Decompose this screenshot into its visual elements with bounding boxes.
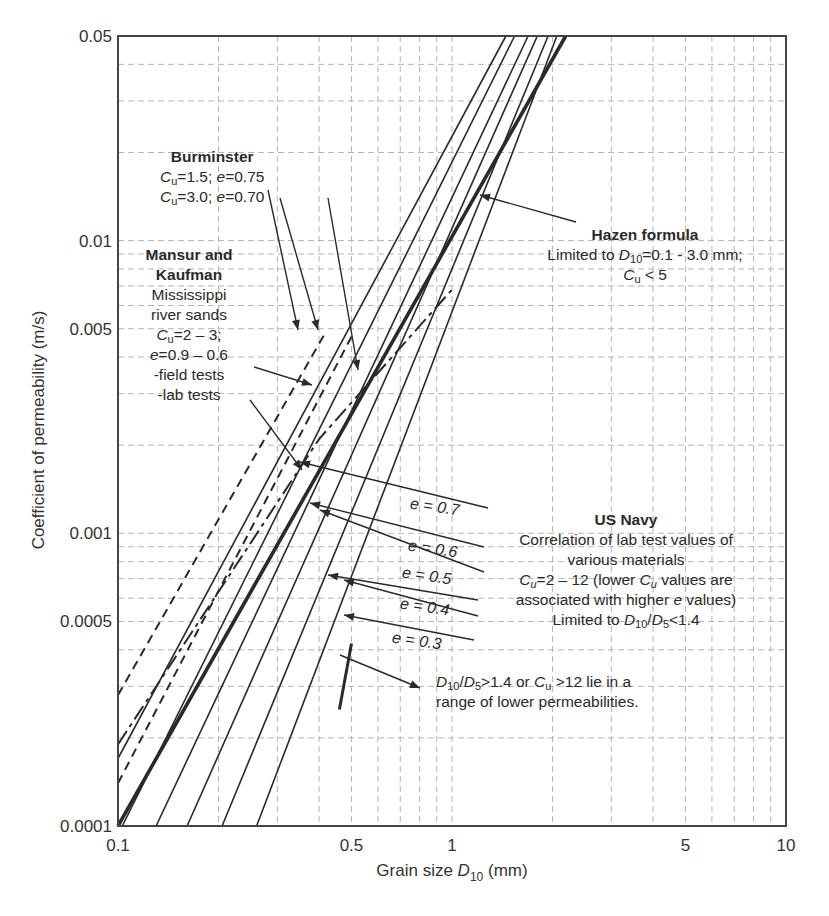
us-navy-annotation: US Navy Correlation of lab test values o… bbox=[476, 510, 776, 630]
hazen-annotation: Hazen formula Limited to D10=0.1 - 3.0 m… bbox=[540, 225, 750, 285]
x-tick-label: 0.5 bbox=[340, 836, 364, 855]
arrow-line bbox=[250, 400, 302, 470]
mansur-kaufman-annotation: Mansur and Kaufman Mississippi river san… bbox=[130, 245, 248, 405]
arrow-line bbox=[340, 655, 420, 688]
arrow-head-icon bbox=[301, 378, 312, 386]
arrow-line bbox=[480, 195, 576, 222]
y-tick-label: 0.01 bbox=[79, 232, 112, 251]
arrow-line bbox=[280, 198, 318, 330]
series-line bbox=[339, 644, 351, 710]
y-tick-label: 0.0005 bbox=[60, 612, 112, 631]
permeability-chart: 0.10.515100.050.010.0050.0010.00050.0001… bbox=[0, 0, 829, 916]
x-tick-label: 1 bbox=[447, 836, 456, 855]
x-tick-label: 5 bbox=[681, 836, 690, 855]
y-tick-label: 0.001 bbox=[69, 524, 112, 543]
lower-permeability-note: D10/D5>1.4 or Cu >12 lie in a range of l… bbox=[436, 672, 638, 712]
x-tick-label: 0.1 bbox=[106, 836, 130, 855]
arrow-head-icon bbox=[344, 613, 355, 621]
arrow-head-icon bbox=[328, 573, 339, 581]
y-tick-label: 0.005 bbox=[69, 320, 112, 339]
arrow-line bbox=[268, 190, 298, 330]
arrow-head-icon bbox=[352, 359, 360, 370]
burminster-annotation: Burminster Cu=1.5; e=0.75 Cu=3.0; e=0.70 bbox=[160, 147, 264, 207]
arrow-head-icon bbox=[293, 460, 302, 470]
y-tick-label: 0.0001 bbox=[60, 817, 112, 836]
arrow-head-icon bbox=[409, 680, 420, 688]
y-axis-title: Coefficient of permeability (m/s) bbox=[29, 311, 48, 550]
arrow-head-icon bbox=[344, 579, 355, 587]
arrow-head-icon bbox=[320, 510, 331, 517]
x-axis-title: Grain size D10 (mm) bbox=[376, 861, 527, 884]
y-tick-label: 0.05 bbox=[79, 27, 112, 46]
arrow-line bbox=[328, 198, 358, 370]
x-tick-label: 10 bbox=[777, 836, 796, 855]
